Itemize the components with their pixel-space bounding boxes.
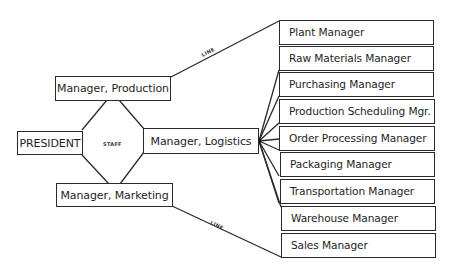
- subordinate-label: Plant Manager: [289, 27, 364, 38]
- manager-production-label: Manager, Production: [57, 83, 169, 94]
- president-box: PRESIDENT: [17, 131, 83, 155]
- staff-edge-bottom-left: [82, 155, 109, 184]
- subordinate-label: Sales Manager: [291, 240, 368, 251]
- staff-edge-bottom-right: [120, 152, 144, 184]
- manager-production-box: Manager, Production: [55, 76, 171, 101]
- subordinate-box-production-scheduling: Production Scheduling Mgr.: [279, 99, 435, 124]
- manager-logistics-box: Manager, Logistics: [143, 128, 259, 154]
- subordinate-box-order-processing-manager: Order Processing Manager: [279, 126, 435, 151]
- subordinate-label: Purchasing Manager: [289, 79, 395, 90]
- subordinate-label: Raw Materials Manager: [289, 53, 411, 64]
- subordinate-label: Packaging Manager: [290, 159, 392, 170]
- line-marketing-sales: [172, 206, 281, 257]
- subordinate-box-warehouse-manager: Warehouse Manager: [281, 206, 436, 231]
- staff-edge-top-right: [119, 100, 144, 129]
- subordinate-label: Production Scheduling Mgr.: [289, 106, 431, 117]
- subordinate-label: Transportation Manager: [290, 186, 414, 197]
- subordinate-box-purchasing-manager: Purchasing Manager: [279, 72, 434, 97]
- subordinate-box-sales-manager: Sales Manager: [281, 233, 436, 258]
- subordinate-label: Order Processing Manager: [289, 133, 426, 144]
- fan-raw-materials: [259, 70, 279, 141]
- subordinate-box-transportation-manager: Transportation Manager: [280, 179, 435, 204]
- subordinate-box-raw-materials-manager: Raw Materials Manager: [279, 46, 434, 71]
- president-label: PRESIDENT: [20, 138, 81, 149]
- subordinate-label: Warehouse Manager: [291, 213, 398, 224]
- manager-marketing-label: Manager, Marketing: [60, 190, 168, 201]
- manager-logistics-label: Manager, Logistics: [151, 136, 252, 147]
- manager-marketing-box: Manager, Marketing: [56, 183, 173, 207]
- subordinate-box-packaging-manager: Packaging Manager: [280, 152, 435, 177]
- subordinate-box-plant-manager: Plant Manager: [279, 20, 434, 45]
- staff-edge-top-left: [82, 100, 107, 130]
- fan-order-processing: [259, 139, 279, 141]
- staff-label: STAFF: [103, 141, 122, 147]
- fan-purchasing: [259, 96, 279, 141]
- line-production-plant: [171, 21, 279, 77]
